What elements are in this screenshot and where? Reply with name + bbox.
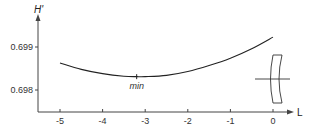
x-tick-label: -5 [56, 116, 64, 126]
x-axis-title: L [297, 107, 303, 118]
chart: H' L -5-4-3-2-10 0.6980.699 min [0, 0, 314, 130]
y-ticks: 0.6980.699 [10, 42, 38, 95]
min-label: min [129, 81, 144, 91]
x-tick-label: 0 [270, 116, 275, 126]
y-axis-title: H' [34, 4, 44, 15]
y-axis-arrow-icon [36, 14, 41, 21]
x-tick-label: -1 [226, 116, 234, 126]
y-tick-label: 0.698 [10, 85, 33, 95]
axes [38, 18, 290, 112]
x-tick-label: -4 [99, 116, 107, 126]
lens-cross-section-icon [255, 55, 290, 103]
y-tick-label: 0.699 [10, 42, 33, 52]
x-axis-arrow-icon [287, 110, 294, 115]
x-tick-label: -3 [141, 116, 149, 126]
x-tick-label: -2 [184, 116, 192, 126]
data-line [60, 37, 273, 77]
